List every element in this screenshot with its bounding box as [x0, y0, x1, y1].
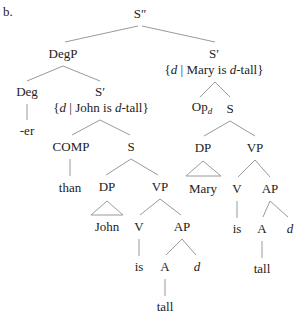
leaf-er: -er [20, 124, 34, 138]
node-s-prime-right: S′ [209, 47, 219, 61]
node-s-double-prime: S″ [134, 7, 147, 21]
node-s-left: S [127, 140, 134, 154]
leaf-d-left: d [194, 260, 201, 274]
node-ap-left: AP [174, 220, 191, 234]
node-ap-right: AP [262, 182, 279, 196]
node-a-left: A [160, 260, 169, 274]
leaf-is-right: is [233, 222, 242, 236]
node-comp: COMP [53, 140, 90, 154]
node-s-right: S [226, 102, 233, 116]
node-dp-left: DP [99, 180, 116, 194]
node-vp-right: VP [247, 141, 264, 155]
leaf-mary: Mary [189, 182, 217, 196]
example-label: b. [3, 4, 13, 20]
leaf-tall-left: tall [157, 300, 174, 314]
leaf-is-left: is [135, 260, 144, 274]
node-a-right: A [257, 222, 266, 236]
node-op: Opd [192, 100, 212, 118]
node-vp-left: VP [152, 180, 169, 194]
leaf-than: than [59, 181, 81, 195]
leaf-john: John [95, 220, 120, 234]
set-label-john: {d | John is d-tall} [53, 101, 148, 115]
node-v-right: V [232, 182, 241, 196]
node-deg: Deg [16, 85, 38, 99]
node-degp: DegP [49, 47, 78, 61]
node-dp-right: DP [195, 141, 212, 155]
leaf-tall-right: tall [254, 262, 271, 276]
node-v-left: V [134, 220, 143, 234]
node-s-prime-left: S′ [95, 85, 105, 99]
set-label-mary: {d | Mary is d-tall} [165, 63, 264, 77]
leaf-d-right: d [287, 222, 294, 236]
